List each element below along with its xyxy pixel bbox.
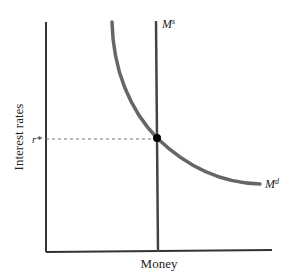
money-demand-curve (112, 22, 260, 184)
ms-label: Ms (161, 17, 175, 31)
equilibrium-point (153, 134, 161, 142)
md-label: Md (264, 177, 280, 191)
r-star-label: r* (32, 133, 42, 145)
y-axis-label: Interest rates (11, 104, 26, 171)
x-axis-label: Money (141, 256, 178, 271)
money-market-diagram: Ms Md r* Money Interest rates (0, 0, 296, 276)
